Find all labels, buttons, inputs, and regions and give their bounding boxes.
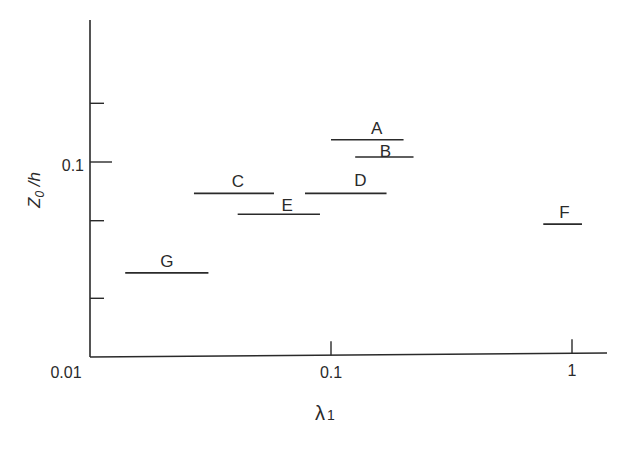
series-a: A bbox=[331, 119, 404, 140]
axes bbox=[90, 20, 607, 357]
x-tick-label: 1 bbox=[568, 362, 577, 379]
y-tick-label: 0.1 bbox=[62, 157, 84, 174]
x-axis bbox=[90, 353, 607, 357]
series-label: D bbox=[354, 171, 366, 190]
series-b: B bbox=[355, 142, 413, 161]
series-label: G bbox=[160, 252, 173, 271]
tick-labels: 0.110.1 bbox=[62, 157, 577, 381]
series-label: E bbox=[281, 196, 292, 215]
series-label: A bbox=[371, 119, 383, 138]
data-series: ABCDEFG bbox=[125, 119, 582, 273]
series-f: F bbox=[543, 203, 582, 224]
x-axis-label: λ1 bbox=[315, 402, 335, 424]
series-g: G bbox=[125, 252, 208, 273]
y-ticks bbox=[90, 103, 112, 298]
series-d: D bbox=[305, 171, 387, 193]
series-label: B bbox=[380, 142, 391, 161]
series-e: E bbox=[238, 196, 320, 215]
series-label: F bbox=[559, 203, 569, 222]
y-axis-label: Z0 /h bbox=[25, 172, 47, 209]
x-tick-label: 0.1 bbox=[320, 364, 342, 381]
origin-label: 0.01 bbox=[50, 364, 81, 381]
series-label: C bbox=[232, 172, 244, 191]
chart: 0.110.1 ABCDEFG 0.01 Z0 /h λ1 bbox=[0, 0, 619, 456]
series-c: C bbox=[194, 172, 274, 193]
